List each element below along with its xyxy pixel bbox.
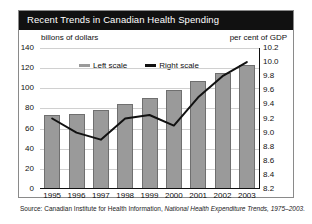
chart-title-bar: Recent Trends in Canadian Health Spendin… [19,11,293,30]
y2-axis-tick-label: 9.4 [263,100,274,108]
figure-container: Recent Trends in Canadian Health Spendin… [0,0,312,224]
y2-axis-tick-label: 9.8 [263,72,274,80]
source-prefix: Source: Canadian Institute for Health In… [20,205,163,212]
y-axis-tick-label: 140 [21,44,34,52]
x-axis-tick-label: 2002 [210,191,234,200]
y2-axis-tick-label: 8.4 [263,171,274,179]
x-axis-tick-label: 1998 [113,191,137,200]
y2-axis-tick-label: 10.0 [263,58,279,66]
y-axis-tick-label: 120 [21,64,34,72]
x-axis-tick-label: 1999 [137,191,161,200]
y-axis-tick-label: 80 [25,104,34,112]
x-axis-tick-label: 1996 [64,191,88,200]
x-axis-tick-label: 2003 [235,191,259,200]
right-scale-line-series [40,48,259,189]
x-axis-tick-label: 1995 [40,191,64,200]
y2-axis-tick-label: 8.2 [263,185,274,193]
y2-axis-tick-label: 9.2 [263,115,274,123]
y-axis-tick-label: 40 [25,145,34,153]
x-axis-tick-label: 2000 [162,191,186,200]
y-axis-tick-label: 100 [21,84,34,92]
x-axis-tick-label: 2001 [186,191,210,200]
y2-axis-tick-label: 9.6 [263,86,274,94]
left-axis-caption: billons of dollars [41,33,98,42]
chart-frame: Recent Trends in Canadian Health Spendin… [18,10,294,198]
page-title: Recent Trends in Canadian Health Spendin… [27,14,219,25]
y-axis-tick-label: 60 [25,125,34,133]
line-path [52,62,247,140]
y2-axis-tick-label: 9.0 [263,129,274,137]
source-publication: National Health Expenditure Trends, 1975… [165,205,305,212]
y2-axis-tick-label: 8.8 [263,143,274,151]
right-axis-line [259,48,260,189]
y2-axis-tick-label: 8.6 [263,157,274,165]
source-note: Source: Canadian Institute for Health In… [20,205,305,212]
right-axis-caption: per cent of GDP [230,33,287,42]
x-axis-tick-label: 1997 [89,191,113,200]
right-axis-ticks: 8.28.48.68.89.09.29.49.69.810.010.2 [263,48,293,189]
y2-axis-tick-label: 10.2 [263,44,279,52]
x-axis-labels: 199519961997199819992000200120022003 [40,191,259,203]
left-axis-ticks: 020406080100120140 [19,48,37,189]
y-axis-tick-label: 0 [30,185,34,193]
y-axis-tick-label: 20 [25,165,34,173]
